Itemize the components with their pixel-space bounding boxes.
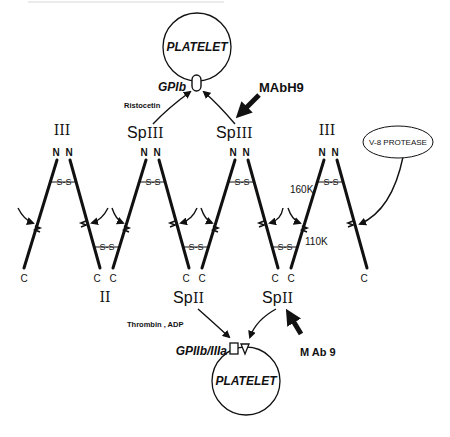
domain-spiii-label: III bbox=[236, 125, 253, 141]
svg-text:C: C bbox=[20, 273, 27, 284]
c-termini: C C C C C C C C bbox=[20, 273, 367, 284]
domain-iii-label: III bbox=[319, 122, 336, 138]
domain-spiii-label: III bbox=[147, 125, 164, 141]
n-termini: N N N N N N N N bbox=[52, 147, 338, 158]
v8-protease-bubble: V-8 PROTEASE bbox=[363, 126, 433, 158]
bottom-domain-labels: II Sp II Sp II bbox=[99, 289, 293, 306]
platelet-top-label: PLATELET bbox=[166, 40, 229, 54]
sp-prefix: Sp bbox=[262, 289, 282, 306]
v8-protease-arrow bbox=[360, 157, 403, 224]
n-terminus: N bbox=[318, 147, 325, 158]
arrow-spiii-to-gpib-right bbox=[204, 92, 235, 124]
ristocetin-label: Ristocetin bbox=[124, 101, 161, 110]
sp-prefix: Sp bbox=[127, 124, 147, 141]
svg-text:C: C bbox=[182, 273, 189, 284]
mabh9-arrow-icon bbox=[240, 95, 259, 114]
domain-ii-label: II bbox=[99, 289, 110, 305]
mabh9-label: MAbH9 bbox=[259, 80, 304, 95]
mab9-label: M Ab 9 bbox=[300, 346, 336, 358]
n-terminus: N bbox=[65, 147, 72, 158]
v8-protease-label: V-8 PROTEASE bbox=[369, 138, 427, 147]
svg-text:S-S: S-S bbox=[56, 177, 71, 187]
arrow-spii-to-gpiibiiia-right bbox=[250, 309, 276, 337]
svg-text:C: C bbox=[360, 273, 367, 284]
svg-text:C: C bbox=[287, 273, 294, 284]
n-terminus: N bbox=[331, 147, 338, 158]
arrow-spii-to-gpiibiiia-left bbox=[198, 309, 229, 337]
domain-spii-label: II bbox=[193, 290, 204, 306]
svg-text:S-S: S-S bbox=[234, 177, 249, 187]
platelet-top: PLATELET GPIb bbox=[158, 13, 231, 94]
n-terminus: N bbox=[153, 147, 160, 158]
gpiiia-receptor-icon bbox=[241, 344, 249, 354]
disulfide-bonds-lower: S-S S-S S-S bbox=[93, 242, 298, 252]
n-terminus: N bbox=[140, 147, 147, 158]
fragment-160k-label: 160K bbox=[290, 184, 314, 195]
thrombin-adp-label: Thrombin , ADP bbox=[127, 320, 183, 329]
gpiibiiia-label: GPIIb/IIIa bbox=[176, 344, 228, 358]
svg-text:C: C bbox=[93, 273, 100, 284]
svg-text:S-S: S-S bbox=[188, 242, 203, 252]
sp-prefix: Sp bbox=[216, 124, 236, 141]
n-terminus: N bbox=[52, 147, 59, 158]
sp-prefix: Sp bbox=[173, 289, 193, 306]
svg-text:C: C bbox=[109, 273, 116, 284]
svg-text:S-S: S-S bbox=[323, 177, 338, 187]
svg-text:C: C bbox=[198, 273, 205, 284]
gpib-label: GPIb bbox=[158, 80, 186, 94]
gpiib-receptor-icon bbox=[230, 343, 238, 354]
svg-text:S-S: S-S bbox=[277, 242, 292, 252]
fragment-110k-label: 110K bbox=[305, 236, 328, 247]
top-domain-labels: III Sp III Sp III III bbox=[54, 122, 336, 141]
gpib-receptor-icon bbox=[192, 75, 201, 91]
platelet-bottom: PLATELET GPIIb/IIIa bbox=[176, 343, 280, 415]
platelet-bottom-label: PLATELET bbox=[215, 374, 278, 388]
mab9-arrow-icon bbox=[289, 314, 301, 334]
domain-iii-label: III bbox=[54, 122, 71, 138]
thrombospondin-platelet-diagram: PLATELET GPIb Ristocetin MAbH9 III Sp II… bbox=[0, 0, 450, 437]
svg-text:S-S: S-S bbox=[145, 177, 160, 187]
n-terminus: N bbox=[229, 147, 236, 158]
domain-spii-label: II bbox=[282, 290, 293, 306]
svg-text:S-S: S-S bbox=[99, 242, 114, 252]
n-terminus: N bbox=[242, 147, 249, 158]
svg-text:C: C bbox=[271, 273, 278, 284]
